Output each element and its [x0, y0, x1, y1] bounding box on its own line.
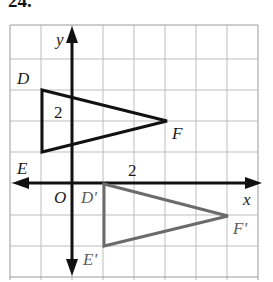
vertex-label-E-prime: E' [82, 250, 97, 269]
vertex-label-E: E [16, 159, 28, 178]
grid-lines [10, 25, 258, 280]
figure-root: 24. [0, 0, 273, 282]
vertex-label-D: D [16, 69, 30, 88]
y-tick-label-2: 2 [54, 103, 63, 122]
vertex-label-F-prime: F' [232, 219, 247, 238]
vertex-label-D-prime: D' [80, 188, 97, 207]
x-axis-label: x [242, 190, 251, 209]
y-axis [66, 26, 78, 276]
coordinate-graph: y x O 2 2 D E F D' E' F' [0, 0, 273, 282]
y-axis-label: y [54, 30, 64, 49]
x-axis [12, 177, 262, 189]
x-tick-label-2: 2 [128, 161, 137, 180]
vertex-label-F: F [171, 124, 183, 143]
origin-label: O [54, 188, 66, 207]
